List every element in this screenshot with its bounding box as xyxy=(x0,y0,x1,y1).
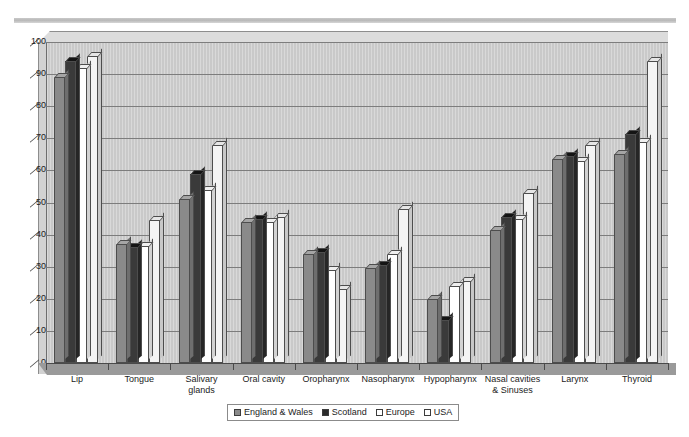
bar-group xyxy=(241,42,289,363)
bar-group xyxy=(54,42,102,363)
bar-side-face xyxy=(201,166,205,359)
bar xyxy=(179,199,190,363)
bar-front-face xyxy=(303,254,314,363)
legend-swatch-icon xyxy=(322,409,329,416)
legend-item[interactable]: Scotland xyxy=(322,407,367,417)
x-axis-tick-mark xyxy=(170,363,171,370)
legend-item[interactable]: Europe xyxy=(376,407,415,417)
chart-legend: England & WalesScotlandEuropeUSA xyxy=(227,404,459,421)
bar-side-face xyxy=(398,246,402,359)
y-axis-tick-label: 20 xyxy=(20,294,46,303)
bar xyxy=(552,159,563,363)
x-axis-tick-label-line: glands xyxy=(160,385,242,396)
bar xyxy=(427,299,438,363)
bar-side-face xyxy=(387,258,391,359)
bar-side-face xyxy=(658,54,662,359)
bar xyxy=(241,222,252,363)
legend-item[interactable]: England & Wales xyxy=(234,407,313,417)
bar-side-face xyxy=(438,291,442,359)
x-axis-tick-mark xyxy=(233,363,234,370)
bar-group xyxy=(179,42,227,363)
bar-group xyxy=(427,42,475,363)
top-divider-rule xyxy=(14,18,676,23)
bar-side-face xyxy=(501,222,505,359)
y-axis-tick-label: 80 xyxy=(20,101,46,110)
bar-side-face xyxy=(65,70,69,359)
bar-side-face xyxy=(223,137,227,359)
y-axis-tick-label: 100 xyxy=(20,37,46,46)
legend-swatch-icon xyxy=(376,409,383,416)
y-axis-tick-label: 30 xyxy=(20,262,46,271)
y-axis-tick-label: 90 xyxy=(20,69,46,78)
bar-front-face xyxy=(365,268,376,363)
bar xyxy=(490,230,501,363)
bar-group xyxy=(490,42,538,363)
x-axis-tick-label: Thyroid xyxy=(596,374,678,385)
bar-side-face xyxy=(347,282,351,359)
bar-side-face xyxy=(523,211,527,359)
bar-front-face xyxy=(116,244,127,363)
bar-side-face xyxy=(512,209,516,359)
y-axis-tick-label: 50 xyxy=(20,198,46,207)
bar-side-face xyxy=(274,214,278,359)
bar-front-face xyxy=(54,77,65,363)
x-axis-tick-mark xyxy=(419,363,420,370)
legend-label: England & Wales xyxy=(244,407,313,417)
x-axis-tick-mark xyxy=(606,363,607,370)
y-axis-tick-label: 70 xyxy=(20,133,46,142)
bar-side-face xyxy=(76,54,80,359)
bar xyxy=(303,254,314,363)
plot-area xyxy=(46,42,668,363)
y-axis: 0102030405060708090100 xyxy=(0,0,46,437)
x-axis-tick-label-line: Thyroid xyxy=(596,374,678,385)
bar xyxy=(365,268,376,363)
bar-side-face xyxy=(138,240,142,359)
legend-swatch-icon xyxy=(424,409,431,416)
bar-side-face xyxy=(409,201,413,359)
legend-label: Scotland xyxy=(332,407,367,417)
x-axis-tick-mark xyxy=(295,363,296,370)
x-axis-tick-mark xyxy=(544,363,545,370)
bar-side-face xyxy=(160,213,164,359)
bar-side-face xyxy=(252,214,256,359)
x-axis-tick-mark xyxy=(481,363,482,370)
bar xyxy=(614,154,625,363)
x-axis-tick-mark xyxy=(357,363,358,370)
y-axis-tick-label: 40 xyxy=(20,230,46,239)
legend-item[interactable]: USA xyxy=(424,407,453,417)
bar-side-face xyxy=(574,148,578,359)
bar-side-face xyxy=(87,60,91,359)
bar-side-face xyxy=(596,137,600,359)
y-axis-tick-label: 60 xyxy=(20,165,46,174)
bar-front-face xyxy=(179,199,190,363)
x-axis-tick-label-line: & Sinuses xyxy=(471,385,553,396)
legend-swatch-icon xyxy=(234,409,241,416)
legend-label: Europe xyxy=(386,407,415,417)
bar-side-face xyxy=(285,209,289,359)
bar-side-face xyxy=(127,237,131,359)
x-axis-tick-mark xyxy=(46,363,47,370)
bar-side-face xyxy=(636,126,640,359)
bar-front-face xyxy=(552,159,563,363)
bar-side-face xyxy=(460,278,464,359)
bar xyxy=(54,77,65,363)
bar-side-face xyxy=(190,192,194,359)
bar-front-face xyxy=(490,230,501,363)
bar-side-face xyxy=(212,182,216,359)
bar xyxy=(116,244,127,363)
bar-group xyxy=(614,42,662,363)
bar-side-face xyxy=(585,153,589,359)
bar-side-face xyxy=(376,261,380,359)
bar-group xyxy=(552,42,600,363)
bar-side-face xyxy=(534,185,538,359)
bar-front-face xyxy=(614,154,625,363)
bar-group xyxy=(365,42,413,363)
bar-side-face xyxy=(98,49,102,359)
chart-figure: 0102030405060708090100 England & WalesSc… xyxy=(0,0,689,437)
bar-side-face xyxy=(647,134,651,359)
bar-group xyxy=(116,42,164,363)
legend-label: USA xyxy=(434,407,453,417)
bar-side-face xyxy=(471,274,475,359)
x-axis-tick-mark xyxy=(108,363,109,370)
bar-front-face xyxy=(241,222,252,363)
